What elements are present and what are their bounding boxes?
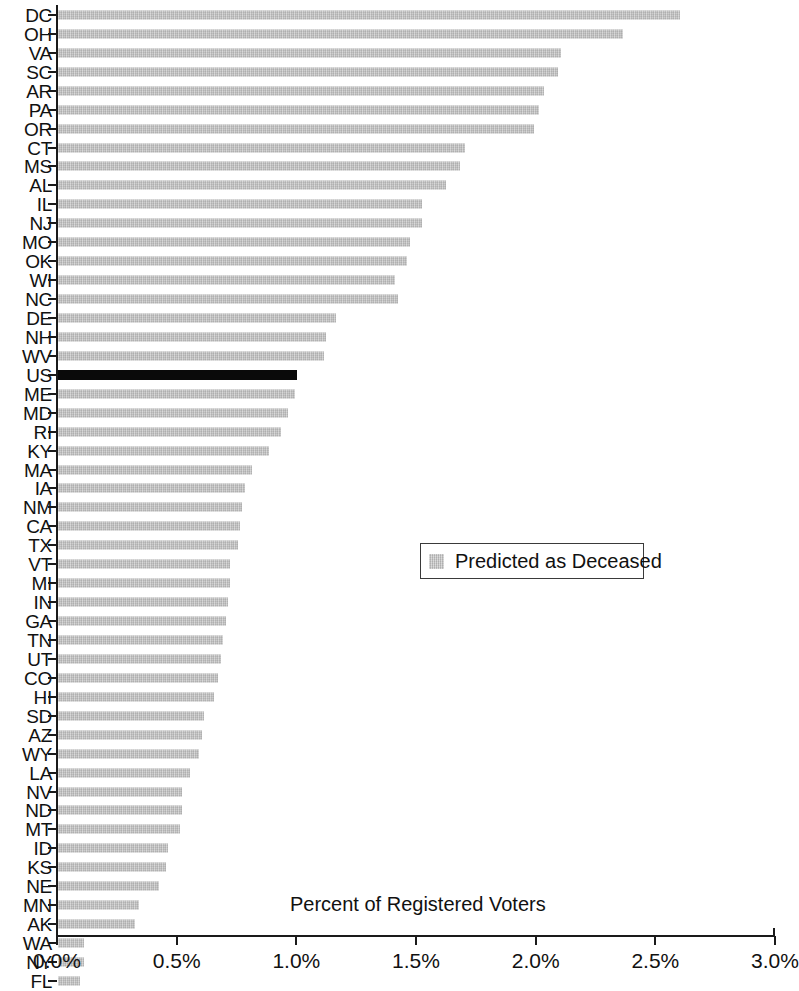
bar-row: IL (0, 195, 797, 214)
y-axis-tick (48, 658, 57, 660)
y-axis-tick (48, 412, 57, 414)
y-axis-tick (48, 222, 57, 224)
legend-swatch-predicted-as-deceased (429, 554, 444, 569)
bar-row: AL (0, 176, 797, 195)
bar (58, 370, 297, 380)
bar-row: HI (0, 687, 797, 706)
bar-row: SD (0, 706, 797, 725)
bar (58, 238, 410, 247)
x-axis-tick-label: 1.0% (272, 949, 320, 973)
bar-row: MD (0, 403, 797, 422)
y-axis-tick (48, 809, 57, 811)
bar (58, 579, 230, 588)
bar-row: TX (0, 536, 797, 555)
bar-row: GA (0, 612, 797, 631)
bar (58, 465, 252, 474)
bar-row: ND (0, 801, 797, 820)
y-axis-tick (48, 33, 57, 35)
y-axis-tick (48, 317, 57, 319)
x-axis-tick-label: 0.0% (33, 949, 81, 973)
bar (58, 200, 422, 209)
x-axis-tick (535, 936, 537, 945)
bar-row: ME (0, 384, 797, 403)
bar (58, 863, 166, 872)
bar-row: AR (0, 81, 797, 100)
bar-row: OH (0, 24, 797, 43)
y-axis-tick (48, 298, 57, 300)
x-axis-tick (56, 936, 58, 945)
bar (58, 86, 544, 95)
bar (58, 408, 288, 417)
x-axis-tick (774, 936, 776, 945)
y-axis-tick (48, 14, 57, 16)
y-axis-tick (48, 260, 57, 262)
bar-row: RI (0, 422, 797, 441)
bar (58, 67, 558, 76)
bar-row: VT (0, 555, 797, 574)
y-axis-tick (48, 753, 57, 755)
bar-row: MT (0, 820, 797, 839)
bar-row: OR (0, 119, 797, 138)
bar-row: TN (0, 631, 797, 650)
bar (58, 276, 395, 285)
bar (58, 446, 269, 455)
bar-row: ID (0, 839, 797, 858)
y-axis-tick (48, 847, 57, 849)
bar-row: PA (0, 100, 797, 119)
bar-row: AZ (0, 725, 797, 744)
y-axis-tick (48, 772, 57, 774)
y-axis-tick (48, 791, 57, 793)
y-axis-tick (48, 469, 57, 471)
bar-row: MS (0, 157, 797, 176)
bar (58, 920, 135, 929)
bar (58, 10, 680, 19)
bar (58, 806, 182, 815)
y-axis-tick (48, 715, 57, 717)
bar-row: UT (0, 649, 797, 668)
bar (58, 503, 242, 512)
bar-row: WI (0, 271, 797, 290)
x-axis-left-cap (56, 928, 58, 936)
y-axis-tick (48, 128, 57, 130)
y-axis-tick (48, 734, 57, 736)
y-axis-tick (48, 885, 57, 887)
x-axis-tick (176, 936, 178, 945)
x-axis-tick (654, 936, 656, 945)
plot-area: DCOHVASCARPAORCTMSALILNJMOOKWINCDENHWVUS… (0, 0, 797, 936)
bar-row: US (0, 365, 797, 384)
bar-row: IN (0, 593, 797, 612)
bar (58, 654, 221, 663)
bar-row: FL (0, 971, 797, 990)
bar-row: MI (0, 574, 797, 593)
y-axis-tick (48, 52, 57, 54)
bar (58, 768, 190, 777)
bar (58, 844, 168, 853)
bar (58, 389, 295, 398)
y-axis-tick (48, 923, 57, 925)
bar-row: NV (0, 782, 797, 801)
bar (58, 749, 199, 758)
y-axis-tick (48, 828, 57, 830)
x-axis-tick (295, 936, 297, 945)
y-axis-tick (48, 487, 57, 489)
y-axis-tick (48, 677, 57, 679)
bar (58, 427, 281, 436)
y-axis-tick (48, 393, 57, 395)
y-axis-tick (48, 544, 57, 546)
y-axis-tick (48, 980, 57, 982)
bar (58, 560, 230, 569)
y-axis-tick (48, 904, 57, 906)
bar-row: OK (0, 252, 797, 271)
bar-row: KY (0, 441, 797, 460)
bar (58, 351, 324, 360)
bar-row: NH (0, 327, 797, 346)
bar (58, 692, 214, 701)
bar-row: IA (0, 479, 797, 498)
y-axis-tick (48, 525, 57, 527)
bar (58, 825, 180, 834)
bar-row: VA (0, 43, 797, 62)
bar (58, 105, 539, 114)
bar-row: WV (0, 346, 797, 365)
y-axis-tick (48, 431, 57, 433)
